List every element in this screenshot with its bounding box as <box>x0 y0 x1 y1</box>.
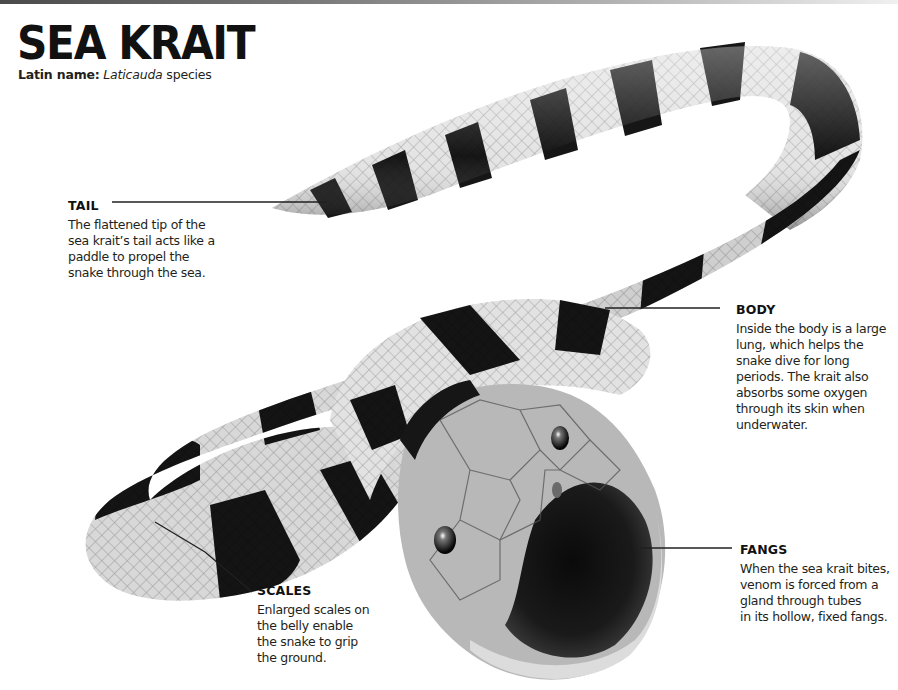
callout-body-heading: BODY <box>736 302 898 317</box>
snake-eye-right <box>551 426 569 450</box>
callout-fangs: FANGS When the sea krait bites, venom is… <box>740 542 898 625</box>
callout-tail-text: The flattened tip of the sea krait’s tai… <box>68 217 238 281</box>
callout-scales-text: Enlarged scales on the belly enable the … <box>257 602 397 666</box>
snake-head <box>398 380 665 680</box>
callout-fangs-heading: FANGS <box>740 542 898 557</box>
callout-body-text: Inside the body is a large lung, which h… <box>736 321 898 433</box>
callout-fangs-text: When the sea krait bites, venom is force… <box>740 561 898 625</box>
callout-tail-heading: TAIL <box>68 198 238 213</box>
callout-scales: SCALES Enlarged scales on the belly enab… <box>257 583 397 666</box>
callout-scales-heading: SCALES <box>257 583 397 598</box>
snake-eye-left <box>434 526 456 554</box>
callout-tail: TAIL The flattened tip of the sea krait’… <box>68 198 238 281</box>
callout-body: BODY Inside the body is a large lung, wh… <box>736 302 898 433</box>
